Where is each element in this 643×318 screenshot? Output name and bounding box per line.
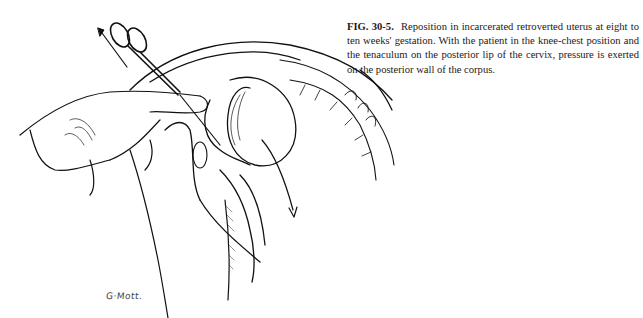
figure-label: FIG. 30-5. [347,21,394,32]
tenaculum-icon [107,20,220,145]
uterus-anatomy [165,77,296,282]
hand-drawing [20,91,208,195]
artist-signature: G·Mott. [105,291,143,301]
figure-caption: FIG. 30-5. Reposition in incarcerated re… [347,20,639,77]
medical-illustration: G·Mott. [0,0,400,318]
downward-arrow-icon [262,140,297,217]
spine-drawing [280,60,394,180]
leg-outline [130,150,229,318]
